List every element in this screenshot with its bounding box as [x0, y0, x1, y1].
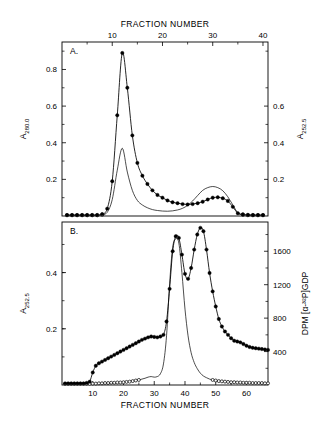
panel-b-marker-open [94, 382, 97, 385]
panel-b-marker-filled [168, 287, 171, 290]
panel-b-marker-filled [220, 325, 223, 328]
panel-a-letter: A. [70, 46, 78, 56]
panel-a-marker-filled [151, 189, 154, 192]
panel-b-xtick-label: 40 [181, 389, 190, 398]
panel-b-marker-filled [229, 336, 232, 339]
panel-b-xtick-label: 30 [150, 389, 159, 398]
panel-a-series-a2525-line [67, 148, 263, 215]
panel-a-marker-filled [131, 134, 134, 137]
panel-a-marker-filled [186, 203, 189, 206]
panel-a-marker-filled [106, 207, 109, 210]
panel-b-marker-filled [128, 345, 131, 348]
panel-a-xtick-label: 40 [259, 31, 268, 40]
panel-a-marker-filled [90, 213, 93, 216]
panel-b-marker-filled [91, 371, 94, 374]
panel-a-xtick-label: 30 [208, 31, 217, 40]
panel-b-marker-open [110, 381, 113, 384]
panel-b-marker-open [125, 380, 128, 383]
chromatography-figure: 10203040FRACTION NUMBER0.20.40.60.80.20.… [0, 0, 323, 432]
panel-b-marker-filled [217, 317, 220, 320]
panel-a-marker-filled [85, 213, 88, 216]
panel-b-left-ytick-label: 0.2 [46, 325, 58, 334]
panel-a-marker-filled [141, 174, 144, 177]
panel-b-marker-open [113, 381, 116, 384]
panel-a-series-a2800-line [67, 52, 263, 215]
panel-b-marker-open [119, 381, 122, 384]
panel-a-marker-filled [256, 213, 259, 216]
panel-b-right-ytick-label: 400 [273, 348, 287, 357]
panel-a-marker-filled [121, 51, 124, 54]
panel-b-marker-filled [232, 339, 235, 342]
panel-b-marker-open [214, 379, 217, 382]
panel-a-left-ytick-label: 0.6 [46, 102, 58, 111]
panel-b-marker-open [116, 381, 119, 384]
panel-b-marker-filled [88, 380, 91, 383]
svg-text:A252.5: A252.5 [295, 118, 307, 139]
panel-a-marker-filled [65, 213, 68, 216]
panel-b-marker-filled [242, 342, 245, 345]
panel-b-marker-filled [251, 346, 254, 349]
panel-b-marker-filled [109, 355, 112, 358]
panel-b-marker-open [122, 381, 125, 384]
panel-a-marker-filled [221, 197, 224, 200]
panel-b-marker-filled [226, 333, 229, 336]
panel-b-series-dpm-line [65, 228, 268, 384]
panel-b-marker-filled [137, 340, 140, 343]
panel-b-marker-filled [189, 266, 192, 269]
panel-a-marker-filled [211, 196, 214, 199]
panel-a-marker-filled [166, 199, 169, 202]
panel-b-marker-filled [103, 358, 106, 361]
panel-b-marker-filled [257, 347, 260, 350]
panel-b-marker-open [230, 381, 233, 384]
panel-a-marker-filled [231, 205, 234, 208]
panel-a-marker-filled [251, 213, 254, 216]
panel-b-marker-open [263, 382, 266, 385]
panel-b-marker-filled [165, 320, 168, 323]
panel-b-series-a2525-line [65, 238, 268, 384]
panel-b-marker-filled [174, 235, 177, 238]
panel-a-marker-filled [80, 213, 83, 216]
panel-b-marker-filled [199, 226, 202, 229]
panel-b-marker-filled [149, 335, 152, 338]
panel-b-marker-filled [266, 348, 269, 351]
panel-a-right-axis-title: A252.5 [295, 118, 307, 139]
panel-b-marker-open [236, 381, 239, 384]
panel-b-marker-open [137, 378, 140, 381]
panel-b-marker-open [100, 382, 103, 385]
panel-b-marker-open [254, 382, 257, 385]
panel-b-marker-open [131, 380, 134, 383]
panel-b-right-axis-title: DPM [α-³²P]GDP [300, 271, 310, 335]
panel-b-marker-filled [196, 233, 199, 236]
panel-b-marker-filled [205, 248, 208, 251]
panel-b-left-axis-title: A252.5 [18, 292, 30, 313]
panel-a-xaxis-title: FRACTION NUMBER [121, 19, 210, 29]
panel-a-marker-filled [95, 213, 98, 216]
panel-a-marker-filled [176, 201, 179, 204]
panel-a-marker-filled [136, 161, 139, 164]
panel-b-marker-filled [125, 347, 128, 350]
panel-b-marker-filled [260, 347, 263, 350]
panel-b-xtick-label: 60 [242, 389, 251, 398]
panel-b-marker-filled [106, 357, 109, 360]
panel-a-marker-filled [116, 114, 119, 117]
svg-text:DPM [α-³²P]GDP: DPM [α-³²P]GDP [300, 271, 310, 335]
panel-b-marker-open [248, 381, 251, 384]
panel-a-marker-filled [261, 213, 264, 216]
panel-b-xaxis-title: FRACTION NUMBER [121, 400, 210, 410]
panel-b-marker-filled [193, 248, 196, 251]
panel-b-marker-open [91, 382, 94, 385]
panel-b-marker-filled [186, 277, 189, 280]
panel-b-marker-filled [223, 330, 226, 333]
panel-a-xtick-label: 10 [108, 31, 117, 40]
figure-container: 10203040FRACTION NUMBER0.20.40.60.80.20.… [0, 0, 323, 432]
panel-b-marker-open [257, 382, 260, 385]
panel-b-marker-filled [122, 348, 125, 351]
panel-b-xtick-label: 10 [88, 389, 97, 398]
panel-a-marker-filled [236, 212, 239, 215]
panel-b-marker-filled [171, 250, 174, 253]
panel-b-marker-filled [159, 335, 162, 338]
panel-b-marker-open [220, 380, 223, 383]
panel-b-marker-filled [134, 342, 137, 345]
panel-b-marker-filled [131, 343, 134, 346]
panel-b-marker-filled [153, 335, 156, 338]
